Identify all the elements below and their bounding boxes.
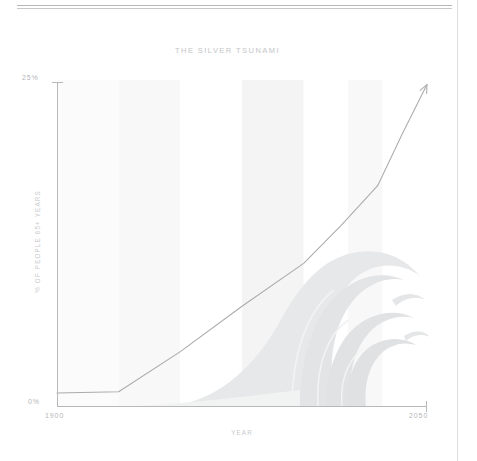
shaded-band [180,80,242,406]
silver-tsunami-chart: THE SILVER TSUNAMI % OF PEOPLE 65+ YEARS… [0,0,477,461]
plot-canvas [0,0,477,461]
shaded-band [57,80,119,406]
page-canvas: THE SILVER TSUNAMI % OF PEOPLE 65+ YEARS… [0,0,477,461]
